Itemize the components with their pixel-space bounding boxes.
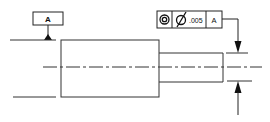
up-arrow-icon (235, 81, 242, 93)
tolerance-value: .005 (189, 17, 203, 24)
feature-control-frame: .005 A (157, 11, 222, 28)
large-diameter-section (61, 40, 159, 97)
datum-label: A (45, 15, 51, 24)
down-arrow-icon (235, 41, 242, 53)
datum-feature-symbol: A (33, 12, 63, 40)
datum-reference: A (211, 16, 216, 25)
fcf-leader (222, 19, 238, 44)
datum-triangle-icon (44, 34, 52, 40)
technical-drawing: A .005 A (0, 0, 270, 122)
